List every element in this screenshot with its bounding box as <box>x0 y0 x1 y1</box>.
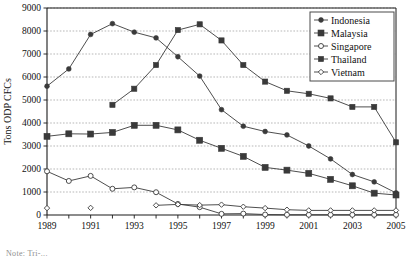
figure-footnote: Note: Tri-... <box>6 249 48 258</box>
svg-text:2000: 2000 <box>22 164 41 174</box>
svg-text:1999: 1999 <box>256 221 275 231</box>
svg-text:1997: 1997 <box>212 221 231 231</box>
svg-text:1995: 1995 <box>168 221 187 231</box>
svg-text:2005: 2005 <box>387 221 406 231</box>
svg-text:1991: 1991 <box>81 221 100 231</box>
svg-text:7000: 7000 <box>22 49 41 59</box>
svg-text:Indonesia: Indonesia <box>331 15 370 26</box>
svg-text:9000: 9000 <box>22 3 41 13</box>
chart-legend: IndonesiaMalaysiaSingaporeThailandVietna… <box>310 12 394 81</box>
svg-text:2001: 2001 <box>299 221 318 231</box>
y-axis-title: Tons ODP CFCs <box>2 78 13 145</box>
svg-text:1000: 1000 <box>22 187 41 197</box>
svg-text:5000: 5000 <box>22 95 41 105</box>
svg-text:6000: 6000 <box>22 72 41 82</box>
svg-text:Vietnam: Vietnam <box>331 67 365 78</box>
svg-text:2003: 2003 <box>343 221 362 231</box>
svg-text:8000: 8000 <box>22 26 41 36</box>
svg-text:1989: 1989 <box>38 221 57 231</box>
y-tick-labels: 0100020003000400050006000700080009000 <box>22 3 41 220</box>
svg-text:1993: 1993 <box>125 221 144 231</box>
series-malaysia <box>44 122 399 198</box>
svg-text:Malaysia: Malaysia <box>331 28 368 39</box>
svg-text:0: 0 <box>36 210 41 220</box>
svg-text:Singapore: Singapore <box>331 41 372 52</box>
svg-text:Tons ODP CFCs: Tons ODP CFCs <box>2 78 13 145</box>
x-tick-labels: 198919911993199519971999200120032005 <box>38 221 406 231</box>
svg-text:3000: 3000 <box>22 141 41 151</box>
svg-text:4000: 4000 <box>22 118 41 128</box>
svg-text:Thailand: Thailand <box>331 54 367 65</box>
